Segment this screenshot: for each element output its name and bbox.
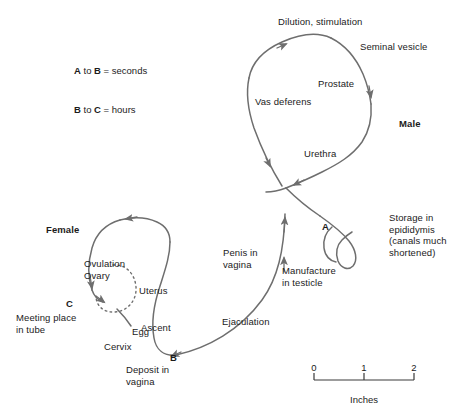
label-penis-in-vagina: Penis in vagina <box>223 247 258 270</box>
label-female: Female <box>46 224 79 236</box>
label-vas-deferens: Vas deferens <box>255 96 311 108</box>
legend-line2-rest: = hours <box>101 104 136 115</box>
urethra-arrow <box>294 180 304 185</box>
ascent-path <box>153 242 176 355</box>
anatomical-flow-diagram: A to B = seconds B to C = hours Dilution… <box>0 0 472 417</box>
scale-tick-1: 1 <box>361 362 366 373</box>
vas-deferens-path <box>248 78 282 186</box>
epididymis-inflow-path <box>286 188 320 216</box>
label-urethra: Urethra <box>304 148 336 160</box>
label-ovary: Ovary <box>84 270 110 282</box>
point-label-b: B <box>170 352 177 364</box>
legend-point-b: B <box>94 65 101 76</box>
legend-line2-mid: to <box>81 104 94 115</box>
scale-tick-2: 2 <box>411 362 416 373</box>
scale-bar: 0 1 2 Inches <box>314 362 414 405</box>
scale-tick-labels: 0 1 2 <box>314 362 414 374</box>
pathway-curves <box>0 0 472 417</box>
label-storage-epididymis: Storage in epididymis (canals much short… <box>389 212 447 258</box>
point-label-c: C <box>66 298 73 310</box>
label-ovulation: Ovulation <box>84 258 125 270</box>
prostate-to-urethra-path <box>286 104 371 188</box>
point-label-a: A <box>322 221 329 233</box>
label-meeting-place: Meeting place in tube <box>16 312 76 335</box>
vas-deferens-arrow-upper <box>277 44 286 48</box>
egg-leader-line <box>117 309 131 326</box>
label-male: Male <box>399 118 421 130</box>
legend-line1-rest: = seconds <box>101 65 147 76</box>
legend-line1-mid: to <box>81 65 94 76</box>
legend-line-1: A to B = seconds <box>74 64 147 77</box>
label-uterus: Uterus <box>139 285 168 297</box>
legend-point-c: C <box>94 104 101 115</box>
label-deposit-vagina: Deposit in vagina <box>126 364 169 387</box>
label-prostate: Prostate <box>318 78 354 90</box>
label-ejaculation: Ejaculation <box>222 316 270 328</box>
uterus-top-arc-path <box>120 218 170 242</box>
label-cervix: Cervix <box>104 341 132 353</box>
urethra-path <box>266 188 286 192</box>
legend: A to B = seconds B to C = hours <box>74 38 147 142</box>
label-egg: Egg <box>132 326 149 338</box>
scale-tick-0: 0 <box>311 362 316 373</box>
legend-line-2: B to C = hours <box>74 103 147 116</box>
ejaculation-path <box>176 214 285 355</box>
dilution-arc-path <box>249 35 331 78</box>
label-manufacture-testicle: Manufacture in testicle <box>282 265 336 288</box>
label-dilution-stimulation: Dilution, stimulation <box>278 16 362 28</box>
legend-point-b2: B <box>74 104 81 115</box>
scale-caption: Inches <box>314 394 414 405</box>
legend-point-a: A <box>74 65 81 76</box>
label-seminal-vesicle: Seminal vesicle <box>360 41 428 53</box>
